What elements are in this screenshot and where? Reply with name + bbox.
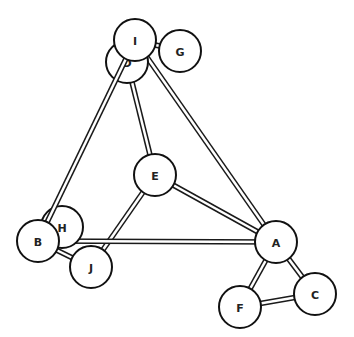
node-label: A — [272, 237, 281, 250]
node-e: E — [134, 154, 176, 196]
node-label: I — [133, 35, 137, 48]
node-label: J — [88, 262, 93, 275]
node-label: H — [57, 222, 66, 235]
node-j: J — [70, 246, 112, 288]
node-f: F — [219, 286, 261, 328]
node-label: E — [151, 170, 159, 183]
node-c: C — [294, 273, 336, 315]
nodes-layer: DHIGEJBACF — [17, 19, 336, 328]
edge-i-b — [38, 40, 135, 241]
node-a: A — [255, 221, 297, 263]
node-g: G — [159, 30, 201, 72]
node-label: G — [175, 46, 184, 59]
node-label: F — [236, 302, 244, 315]
node-i: I — [114, 19, 156, 61]
node-label: C — [311, 289, 319, 302]
node-label: B — [34, 236, 42, 249]
graph-diagram: DHIGEJBACF — [0, 0, 354, 337]
node-b: B — [17, 220, 59, 262]
edge-i-a — [135, 40, 276, 242]
